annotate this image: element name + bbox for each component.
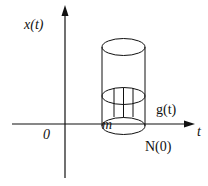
y-axis-arrow-icon bbox=[62, 5, 69, 16]
base-point-label: N(0) bbox=[145, 140, 171, 154]
y-axis-label: x(t) bbox=[24, 18, 43, 32]
origin-label: 0 bbox=[43, 128, 50, 142]
cylinder-top-ellipse bbox=[102, 39, 145, 56]
curve-label: g(t) bbox=[156, 103, 176, 117]
x-axis-arrow-icon bbox=[184, 121, 195, 128]
x-axis-label: t bbox=[197, 125, 201, 139]
mass-label: m bbox=[102, 118, 112, 132]
